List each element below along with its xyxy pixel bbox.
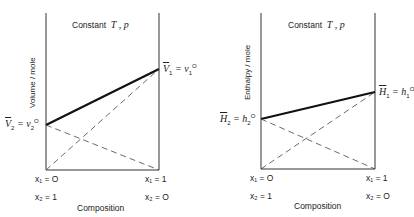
x-right-2: x₂ = O bbox=[366, 191, 390, 201]
v1-equals: = v bbox=[172, 63, 188, 74]
v1-label: V1 = v1O bbox=[163, 61, 197, 78]
h2-superscript: O bbox=[251, 113, 256, 119]
title-vars: T , p bbox=[111, 19, 129, 30]
title-prefix: Constant bbox=[288, 20, 322, 30]
volume-panel-title: Constant T , p bbox=[72, 19, 129, 30]
enthalpy-ylabel: Enthalpy / mole bbox=[243, 45, 252, 100]
x-left-2: x₂ = 1 bbox=[35, 192, 57, 202]
h1-equals: = h bbox=[390, 86, 407, 97]
h1-label: H1 = h1O bbox=[379, 84, 414, 101]
solution-enthalpy-line bbox=[261, 92, 375, 119]
component1-dashed-line bbox=[46, 69, 159, 170]
v1-sub2: 1 bbox=[189, 70, 192, 76]
enthalpy-panel-title: Constant T , p bbox=[288, 19, 345, 30]
v2-sub2: 2 bbox=[31, 125, 34, 131]
volume-panel bbox=[46, 13, 159, 170]
x-right-1: x₁ = 1 bbox=[145, 174, 167, 184]
component1-dashed-line bbox=[261, 92, 375, 169]
title-prefix: Constant bbox=[72, 20, 106, 30]
x-left-1: x₁ = O bbox=[250, 173, 273, 183]
enthalpy-xlabel: Composition bbox=[294, 201, 341, 211]
h2-sub2: 2 bbox=[247, 120, 250, 126]
h2-label: H2 = h2O bbox=[220, 111, 255, 128]
volume-ylabel: Volume / mole bbox=[28, 57, 37, 108]
x-left-2: x₂ = 1 bbox=[250, 191, 272, 201]
component2-dashed-line bbox=[46, 125, 159, 170]
x-right-1: x₁ = 1 bbox=[366, 173, 388, 183]
v1-superscript: O bbox=[192, 63, 197, 69]
component2-dashed-line bbox=[261, 119, 375, 169]
v2-superscript: O bbox=[34, 118, 39, 124]
solution-volume-line bbox=[46, 69, 159, 125]
x-right-2: x₂ = O bbox=[145, 192, 169, 202]
x-left-1: x₁ = O bbox=[35, 174, 58, 184]
h1-sub2: 1 bbox=[406, 93, 409, 99]
h2-equals: = h bbox=[231, 113, 248, 124]
volume-xlabel: Composition bbox=[77, 203, 124, 213]
h1-superscript: O bbox=[410, 86, 414, 92]
v2-equals: = v bbox=[14, 118, 30, 129]
title-vars: T , p bbox=[327, 19, 345, 30]
v2-label: V2 = v2O bbox=[5, 116, 39, 133]
enthalpy-panel bbox=[261, 13, 375, 169]
